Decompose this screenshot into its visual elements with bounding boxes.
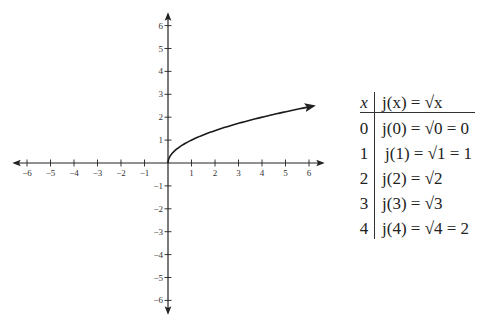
- row-expression: j(1) = √1 = 1: [385, 141, 472, 166]
- y-tick-label: 6: [159, 21, 164, 31]
- y-tick-label: −6: [153, 295, 163, 305]
- row-x-value: 1: [356, 141, 372, 166]
- y-tick-label: −3: [153, 227, 163, 237]
- y-tick-label: −5: [153, 273, 163, 283]
- header-function: j(x) = √x: [382, 90, 442, 115]
- x-tick-label: −1: [140, 168, 150, 178]
- row-x-value: 2: [356, 166, 372, 191]
- x-tick-label: 3: [236, 168, 241, 178]
- x-tick-label: −6: [22, 168, 32, 178]
- x-tick-label: −2: [116, 168, 126, 178]
- y-tick-label: 4: [159, 66, 164, 76]
- row-expression: j(0) = √0 = 0: [382, 116, 469, 141]
- y-tick-label: −1: [153, 181, 163, 191]
- x-tick-label: 1: [189, 168, 194, 178]
- x-tick-label: 4: [260, 168, 265, 178]
- y-tick-label: 1: [159, 135, 164, 145]
- header-x: x: [356, 90, 372, 115]
- sqrt-function-curve: [168, 106, 314, 163]
- x-tick-label: −4: [69, 168, 79, 178]
- x-tick-label: −5: [46, 168, 56, 178]
- row-expression: j(3) = √3: [382, 191, 442, 216]
- y-tick-label: 3: [159, 89, 164, 99]
- row-expression: j(4) = √4 = 2: [382, 216, 469, 241]
- coordinate-plane: −6−5−4−3−2−1123456 654321−1−2−3−4−5−6: [0, 0, 330, 327]
- x-tick-label: 5: [283, 168, 288, 178]
- row-x-value: 3: [356, 191, 372, 216]
- y-tick-label: 5: [159, 44, 164, 54]
- y-tick-label: 2: [159, 112, 164, 122]
- x-axis-ticks: −6−5−4−3−2−1123456: [22, 160, 312, 179]
- x-tick-label: 6: [307, 168, 312, 178]
- row-x-value: 0: [356, 116, 372, 141]
- y-tick-label: −4: [153, 250, 163, 260]
- row-x-value: 4: [356, 216, 372, 241]
- table-column-rule: [374, 92, 375, 239]
- x-tick-label: 2: [213, 168, 218, 178]
- x-tick-label: −3: [93, 168, 103, 178]
- row-expression: j(2) = √2: [382, 166, 442, 191]
- y-tick-label: −2: [153, 204, 163, 214]
